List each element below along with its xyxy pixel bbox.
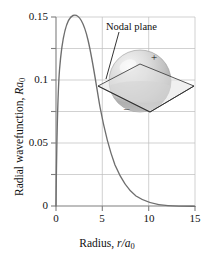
y-axis-title: Radial wavefunction, Ra0 (14, 78, 26, 196)
x-axis-title-text: Radius, (79, 237, 117, 249)
x-axis-title-subscript: 0 (130, 241, 134, 251)
x-tick-marks (56, 206, 195, 211)
x-tick-label-5: 5 (92, 213, 112, 224)
radial-wavefunction-figure: 0.15 0.1 0.05 0 0 5 10 15 Radial wavefun… (0, 0, 214, 262)
y-axis-title-variable: Ra (13, 82, 25, 95)
y-tick-label-0: 0 (10, 200, 48, 211)
y-axis-title-text: Radial wavefunction, (13, 95, 25, 196)
x-axis-title: Radius, r/a0 (0, 238, 214, 250)
negative-lobe-sign: – (124, 103, 130, 114)
positive-lobe-sign: + (151, 52, 157, 63)
y-axis-title-subscript: 0 (17, 78, 27, 82)
x-tick-label-0: 0 (46, 213, 66, 224)
x-axis-title-variable: r/a (117, 237, 130, 249)
x-tick-label-10: 10 (139, 213, 159, 224)
nodal-plane-annotation: Nodal plane (106, 22, 157, 33)
y-tick-label-0-15: 0.15 (10, 11, 48, 22)
y-tick-marks (51, 17, 56, 206)
x-tick-label-15: 15 (185, 213, 205, 224)
